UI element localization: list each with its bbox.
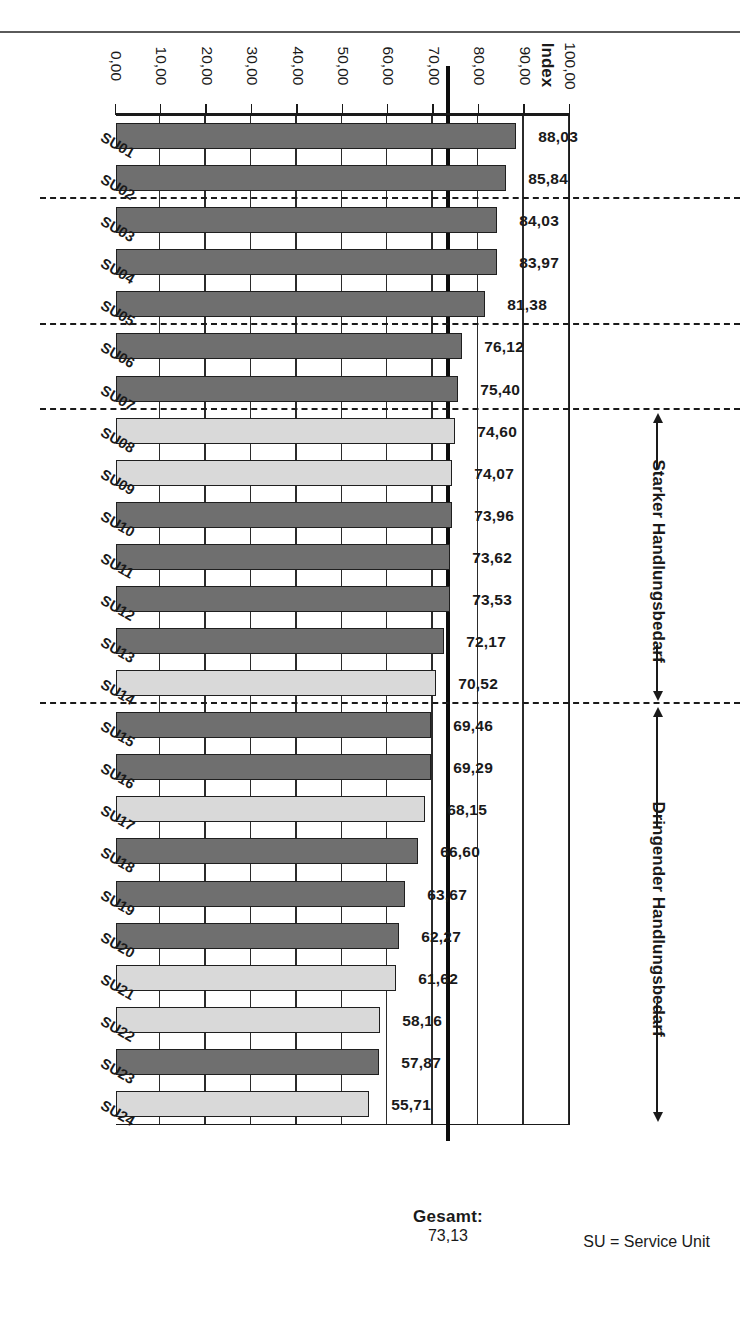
tick-label: 60,00 bbox=[379, 32, 397, 100]
bar-value-label: 75,40 bbox=[464, 381, 520, 399]
annotation-arrow bbox=[656, 645, 658, 692]
tick-label: 30,00 bbox=[243, 32, 261, 100]
bar bbox=[116, 712, 431, 738]
bar-value-label: 73,62 bbox=[456, 549, 512, 567]
bar-value-label: 83,97 bbox=[503, 254, 559, 272]
bar bbox=[116, 376, 458, 402]
bar bbox=[116, 1007, 380, 1033]
bar-value-label: 74,60 bbox=[461, 423, 517, 441]
total-label-value: 73,13 bbox=[388, 1227, 508, 1245]
tick-label: 90,00 bbox=[516, 32, 534, 100]
tick-mark bbox=[478, 104, 479, 115]
bar-value-label: 66,60 bbox=[424, 843, 480, 861]
tick-label: 100,00 bbox=[561, 32, 579, 100]
bar-value-label: 85,84 bbox=[512, 170, 568, 188]
bar bbox=[116, 333, 462, 359]
tick-mark bbox=[251, 104, 252, 115]
bar-value-label: 57,87 bbox=[385, 1054, 441, 1072]
bar bbox=[116, 123, 516, 149]
bar-value-label: 81,38 bbox=[491, 296, 547, 314]
bar bbox=[116, 249, 497, 275]
bar-value-label: 61,62 bbox=[402, 970, 458, 988]
tick-label: 80,00 bbox=[470, 32, 488, 100]
gridline bbox=[568, 116, 569, 1124]
tick-mark bbox=[205, 104, 206, 115]
bar-value-label: 88,03 bbox=[522, 128, 578, 146]
footnote: SU = Service Unit bbox=[583, 1233, 710, 1251]
tick-mark bbox=[569, 104, 570, 115]
bar bbox=[116, 754, 431, 780]
tick-label: 70,00 bbox=[425, 32, 443, 100]
bar-value-label: 62,27 bbox=[405, 928, 461, 946]
bar bbox=[116, 544, 450, 570]
tick-label: 10,00 bbox=[152, 32, 170, 100]
tick-label: 20,00 bbox=[198, 32, 216, 100]
bar-value-label: 74,07 bbox=[458, 465, 514, 483]
bar bbox=[116, 291, 485, 317]
tick-label: 50,00 bbox=[334, 32, 352, 100]
bar bbox=[116, 1049, 379, 1075]
bar bbox=[116, 628, 444, 654]
bracket-annotation-label: Starker Handlungsbedarf bbox=[648, 401, 668, 721]
bar bbox=[116, 502, 452, 528]
bar bbox=[116, 796, 425, 822]
bar-value-label: 69,46 bbox=[437, 717, 493, 735]
category-separator bbox=[40, 197, 740, 199]
total-reference-label: Gesamt: 73,13 bbox=[388, 1207, 508, 1245]
bar bbox=[116, 586, 450, 612]
tick-label: 40,00 bbox=[289, 32, 307, 100]
tick-mark bbox=[387, 104, 388, 115]
bracket-annotation-label: Dringender Handlungsbedarf bbox=[648, 759, 668, 1079]
bar bbox=[116, 965, 396, 991]
value-axis-title: Index bbox=[537, 30, 557, 100]
bar-value-label: 69,29 bbox=[437, 759, 493, 777]
bar bbox=[116, 670, 436, 696]
bar bbox=[116, 1091, 369, 1117]
category-separator bbox=[40, 323, 740, 325]
bar-value-label: 68,15 bbox=[431, 801, 487, 819]
bar bbox=[116, 838, 418, 864]
bar-value-label: 84,03 bbox=[504, 212, 560, 230]
bar-value-label: 73,53 bbox=[456, 591, 512, 609]
bar-value-label: 70,52 bbox=[442, 675, 498, 693]
bar bbox=[116, 923, 399, 949]
bar-chart-figure: Gesamt: 73,13 Index 100,0090,0080,0070,0… bbox=[0, 40, 740, 1323]
total-label-text: Gesamt: bbox=[388, 1207, 508, 1227]
tick-mark bbox=[115, 104, 116, 115]
bar bbox=[116, 460, 452, 486]
bar-value-label: 76,12 bbox=[468, 338, 524, 356]
bar bbox=[116, 165, 506, 191]
bar-value-label: 72,17 bbox=[450, 633, 506, 651]
tick-mark bbox=[342, 104, 343, 115]
annotation-arrow bbox=[656, 1003, 658, 1113]
value-axis-line bbox=[116, 114, 570, 116]
tick-mark bbox=[160, 104, 161, 115]
bar-value-label: 73,96 bbox=[458, 507, 514, 525]
bar bbox=[116, 418, 455, 444]
bar bbox=[116, 881, 405, 907]
bar-value-label: 58,16 bbox=[386, 1012, 442, 1030]
bar-value-label: 55,71 bbox=[375, 1096, 431, 1114]
bar bbox=[116, 207, 497, 233]
tick-mark bbox=[296, 104, 297, 115]
bar-value-label: 63,67 bbox=[411, 886, 467, 904]
annotation-arrow bbox=[656, 422, 658, 469]
tick-mark bbox=[432, 104, 433, 115]
tick-label: 0,00 bbox=[107, 32, 125, 100]
scanned-chart-page: Gesamt: 73,13 Index 100,0090,0080,0070,0… bbox=[0, 0, 740, 1323]
category-separator bbox=[40, 408, 740, 410]
category-separator bbox=[40, 702, 740, 704]
annotation-arrow bbox=[656, 716, 658, 826]
tick-mark bbox=[523, 104, 524, 115]
